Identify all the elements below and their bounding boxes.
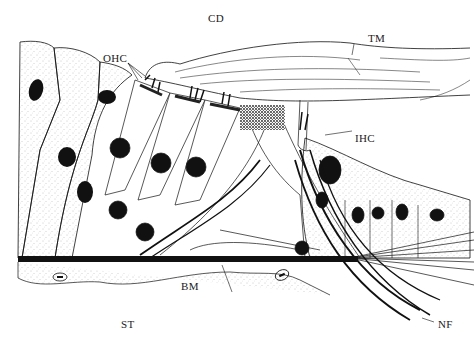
label-cochlear-duct: CD: [208, 12, 224, 24]
label-basilar-membrane: BM: [181, 280, 199, 292]
label-inner-hair-cell: IHC: [355, 132, 375, 144]
inner-hair-cell: [300, 112, 470, 258]
label-nerve-fibres: NF: [438, 318, 453, 330]
tectorial-membrane: [145, 42, 470, 151]
outer-hair-cells: [105, 75, 240, 241]
diagram-drawing: [0, 0, 474, 345]
label-tectorial-membrane: TM: [368, 32, 385, 44]
organ-of-corti-diagram: CD TM OHC IHC BM ST NF: [0, 0, 474, 345]
label-scala-tympani: ST: [121, 318, 134, 330]
label-outer-hair-cells: OHC: [103, 52, 127, 64]
